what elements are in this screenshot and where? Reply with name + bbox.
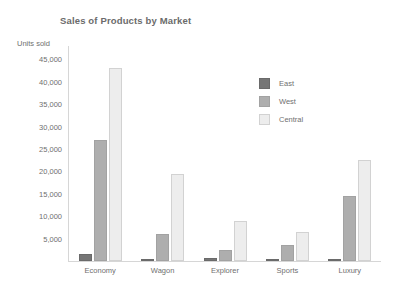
legend-swatch-east-icon <box>259 78 270 89</box>
x-axis-tick-label: Explorer <box>211 266 239 275</box>
x-axis-tick-label: Wagon <box>151 266 175 275</box>
bars-layer <box>69 46 381 261</box>
bar-west-economy <box>94 140 107 261</box>
bar-east-wagon <box>141 259 154 261</box>
bar-chart: Sales of Products by Market Units sold 5… <box>0 0 395 298</box>
y-axis-tick-label: 10,000 <box>39 212 62 221</box>
legend-label-central: Central <box>279 115 303 124</box>
legend-swatch-west-icon <box>259 96 270 107</box>
chart-legend: East West Central <box>259 74 303 128</box>
bar-central-explorer <box>234 221 247 261</box>
bar-west-wagon <box>156 234 169 261</box>
y-axis-tick-label: 30,000 <box>39 122 62 131</box>
y-axis-tick-label: 45,000 <box>39 55 62 64</box>
y-axis-tick-labels: 5,00010,00015,00020,00025,00030,00035,00… <box>0 46 62 262</box>
y-axis-tick-label: 5,000 <box>43 234 62 243</box>
bar-group <box>204 46 247 261</box>
y-axis-tick-label: 40,000 <box>39 77 62 86</box>
x-axis-tick-label: Sports <box>277 266 299 275</box>
legend-label-west: West <box>279 97 296 106</box>
y-axis-tick-label: 35,000 <box>39 100 62 109</box>
bar-group <box>79 46 122 261</box>
bar-group <box>141 46 184 261</box>
x-axis-tick-label: Luxury <box>339 266 362 275</box>
bar-east-sports <box>266 259 279 261</box>
y-axis-tick-label: 20,000 <box>39 167 62 176</box>
bar-central-luxury <box>358 160 371 261</box>
chart-title: Sales of Products by Market <box>60 15 191 26</box>
bar-west-luxury <box>343 196 356 261</box>
y-axis-tick-label: 15,000 <box>39 189 62 198</box>
bar-east-explorer <box>204 258 217 261</box>
bar-west-explorer <box>219 250 232 261</box>
bar-west-sports <box>281 245 294 261</box>
bar-central-wagon <box>171 174 184 261</box>
legend-item-central: Central <box>259 110 303 128</box>
y-axis-tick-label: 25,000 <box>39 145 62 154</box>
legend-label-east: East <box>279 79 294 88</box>
bar-central-economy <box>109 68 122 261</box>
legend-item-west: West <box>259 92 303 110</box>
legend-item-east: East <box>259 74 303 92</box>
x-axis-tick-labels: EconomyWagonExplorerSportsLuxury <box>69 266 381 282</box>
bar-group <box>328 46 371 261</box>
bar-east-economy <box>79 254 92 261</box>
x-axis-tick-label: Economy <box>85 266 116 275</box>
bar-east-luxury <box>328 259 341 261</box>
bar-central-sports <box>296 232 309 261</box>
legend-swatch-central-icon <box>259 114 270 125</box>
